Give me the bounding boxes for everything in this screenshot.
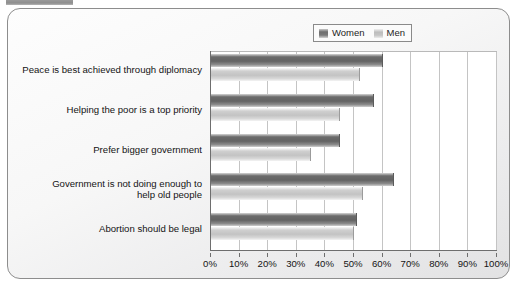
x-tick-label: 0% [203, 258, 217, 269]
x-tick-label: 80% [429, 258, 448, 269]
x-tick-label: 100% [484, 258, 509, 269]
x-tick-mark [239, 253, 240, 257]
x-tick-label: 90% [458, 258, 477, 269]
x-tick-mark [439, 253, 440, 257]
x-axis-line [210, 250, 497, 251]
category-label-line: Peace is best achieved through diplomacy [10, 64, 202, 76]
category-label-line: Government is not doing enough to [10, 178, 202, 190]
scan-artifact-bar [6, 0, 73, 5]
x-tick-mark [210, 253, 211, 257]
bar-women [210, 54, 383, 67]
x-tick-label: 40% [315, 258, 334, 269]
category-axis: Peace is best achieved through diplomacy… [10, 51, 206, 250]
x-axis-labels: 0%10%20%30%40%50%60%70%80%90%100% [8, 253, 510, 273]
y-axis-line [210, 51, 211, 251]
bar-men [210, 108, 340, 121]
x-tick-label: 70% [401, 258, 420, 269]
bar-group [210, 52, 496, 92]
x-tick-mark [353, 253, 354, 257]
bar-men [210, 187, 363, 200]
bar-group [210, 211, 496, 251]
bar-group [210, 132, 496, 172]
category-label-line: Abortion should be legal [10, 223, 202, 235]
bar-women [210, 134, 340, 147]
category-label: Prefer bigger government [10, 144, 202, 156]
x-tick-mark [267, 253, 268, 257]
x-tick-mark [324, 253, 325, 257]
category-label: Abortion should be legal [10, 223, 202, 235]
x-tick-mark [382, 253, 383, 257]
bar-women [210, 94, 374, 107]
x-tick-label: 60% [372, 258, 391, 269]
category-label: Peace is best achieved through diplomacy [10, 64, 202, 76]
gridline [496, 52, 497, 251]
bar-men [210, 68, 360, 81]
bar-men [210, 227, 354, 240]
category-label: Helping the poor is a top priority [10, 104, 202, 116]
category-label-line: Prefer bigger government [10, 144, 202, 156]
x-tick-mark [496, 253, 497, 257]
chart-card: Women Men Peace is best achieved through… [7, 8, 510, 279]
x-tick-mark [296, 253, 297, 257]
x-tick-mark [467, 253, 468, 257]
bar-women [210, 173, 394, 186]
plot-wrapper: Peace is best achieved through diplomacy… [8, 9, 510, 279]
bar-group [210, 92, 496, 132]
plot-area [210, 51, 497, 251]
x-tick-label: 50% [343, 258, 362, 269]
x-tick-mark [410, 253, 411, 257]
category-label-line: help old people [10, 189, 202, 201]
bar-men [210, 148, 311, 161]
bar-women [210, 213, 357, 226]
category-label: Government is not doing enough tohelp ol… [10, 178, 202, 201]
x-tick-label: 30% [286, 258, 305, 269]
x-tick-label: 20% [258, 258, 277, 269]
x-tick-label: 10% [229, 258, 248, 269]
category-label-line: Helping the poor is a top priority [10, 104, 202, 116]
bar-group [210, 171, 496, 211]
